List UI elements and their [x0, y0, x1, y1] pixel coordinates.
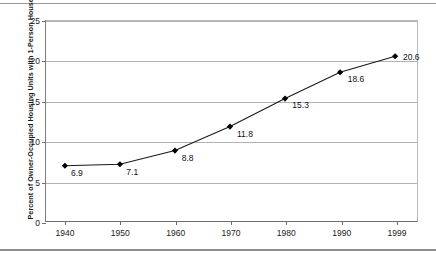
- data-point-label: 6.9: [71, 168, 83, 178]
- data-point-marker: [227, 124, 233, 130]
- y-axis-title: Percent of Owner-Occupied Housing Units …: [26, 0, 35, 220]
- data-point-marker: [117, 161, 123, 167]
- y-tick-mark: [42, 223, 46, 224]
- data-point-label: 7.1: [126, 167, 138, 177]
- x-tick-label: 1960: [166, 228, 185, 238]
- page-rule-top: [0, 3, 436, 4]
- data-point-label: 11.8: [237, 129, 253, 139]
- line-path: [65, 56, 395, 166]
- data-point-marker: [282, 96, 288, 102]
- data-point-label: 20.6: [403, 52, 420, 62]
- x-tick-mark: [120, 221, 121, 225]
- x-tick-mark: [176, 221, 177, 225]
- data-point-label: 15.3: [292, 100, 309, 110]
- x-tick-mark: [397, 221, 398, 225]
- data-point-marker: [172, 148, 178, 154]
- y-tick-label: 15: [31, 97, 40, 107]
- x-tick-label: 1999: [388, 228, 407, 238]
- x-tick-mark: [231, 221, 232, 225]
- page-rule-bottom: [0, 249, 436, 251]
- x-tick-label: 1990: [332, 228, 351, 238]
- x-tick-mark: [65, 221, 66, 225]
- data-point-marker: [392, 53, 398, 59]
- y-tick-label: 10: [31, 137, 40, 147]
- x-tick-label: 1980: [277, 228, 296, 238]
- data-point-marker: [62, 163, 68, 169]
- y-tick-label: 25: [31, 16, 40, 26]
- x-tick-label: 1950: [111, 228, 130, 238]
- x-tick-label: 1970: [222, 228, 241, 238]
- y-tick-label: 20: [31, 56, 40, 66]
- data-point-label: 8.8: [182, 153, 194, 163]
- data-point-marker: [337, 69, 343, 75]
- data-point-label: 18.6: [348, 74, 365, 84]
- chart-figure: Percent of Owner-Occupied Housing Units …: [0, 0, 436, 261]
- y-tick-label: 0: [35, 218, 40, 228]
- x-tick-label: 1940: [56, 228, 75, 238]
- plot-area: 0510152025 1940195019601970198019901999 …: [45, 20, 418, 222]
- x-tick-mark: [342, 221, 343, 225]
- series-line: [46, 21, 417, 221]
- x-tick-mark: [286, 221, 287, 225]
- y-tick-label: 5: [35, 178, 40, 188]
